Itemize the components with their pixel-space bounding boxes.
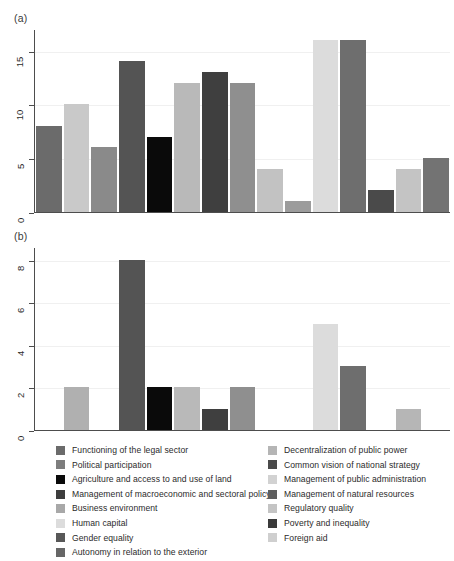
y-tick (29, 159, 34, 160)
bar-series-b (35, 248, 450, 430)
legend-item[interactable]: Management of public administration (268, 472, 454, 487)
legend-label: Decentralization of public power (284, 446, 407, 455)
legend-column-right: Decentralization of public powerCommon v… (268, 443, 454, 545)
bar (64, 104, 90, 212)
legend-label: Management of natural resources (284, 490, 414, 499)
legend-swatch-icon (56, 446, 65, 455)
legend-swatch-icon (268, 519, 277, 528)
y-tick-label: 0 (15, 436, 25, 441)
y-tick-label: 0 (15, 218, 25, 223)
bar (119, 61, 145, 212)
legend-item[interactable]: Foreign aid (268, 531, 454, 546)
legend-item[interactable]: Common vision of national strategy (268, 458, 454, 473)
legend-label: Poverty and inequality (284, 519, 370, 528)
y-tick-label: 15 (15, 56, 25, 67)
legend-label: Autonomy in relation to the exterior (72, 548, 207, 557)
bar (340, 366, 366, 430)
legend-label: Common vision of national strategy (284, 461, 420, 470)
legend-swatch-icon (268, 504, 277, 513)
bar (285, 201, 311, 212)
legend-item[interactable]: Business environment (56, 501, 266, 516)
legend-item[interactable]: Management of natural resources (268, 487, 454, 502)
y-tick-label: 2 (15, 393, 25, 398)
y-tick (29, 105, 34, 106)
bar (174, 83, 200, 212)
bar (91, 147, 117, 212)
legend-swatch-icon (268, 475, 277, 484)
y-tick (29, 303, 34, 304)
bar (202, 409, 228, 430)
legend-label: Foreign aid (284, 534, 328, 543)
y-tick (29, 431, 34, 432)
legend-swatch-icon (56, 504, 65, 513)
bar (230, 387, 256, 430)
legend-label: Human capital (72, 519, 128, 528)
legend-item[interactable]: Decentralization of public power (268, 443, 454, 458)
legend-swatch-icon (56, 533, 65, 542)
legend-swatch-icon (56, 460, 65, 469)
chart-panel-a: (a) 051015 (0, 0, 454, 228)
bar (313, 324, 339, 430)
chart-legend: Functioning of the legal sectorPolitical… (0, 443, 454, 561)
legend-item[interactable]: Agriculture and access to and use of lan… (56, 472, 266, 487)
legend-label: Political participation (72, 461, 152, 470)
bar (147, 387, 173, 430)
bar (202, 72, 228, 212)
y-tick-label: 8 (15, 266, 25, 271)
legend-swatch-icon (268, 490, 277, 499)
legend-swatch-icon (268, 460, 277, 469)
bar (340, 40, 366, 212)
y-tick (29, 52, 34, 53)
legend-swatch-icon (56, 548, 65, 557)
bar (230, 83, 256, 212)
legend-label: Agriculture and access to and use of lan… (72, 475, 232, 484)
legend-swatch-icon (56, 490, 65, 499)
legend-item[interactable]: Management of macroeconomic and sectoral… (56, 487, 266, 502)
bar (396, 409, 422, 430)
panel-b-label: (b) (14, 230, 27, 242)
y-tick (29, 346, 34, 347)
y-tick (29, 388, 34, 389)
bar (313, 40, 339, 212)
legend-label: Gender equality (72, 534, 133, 543)
legend-label: Business environment (72, 504, 158, 513)
legend-label: Functioning of the legal sector (72, 446, 188, 455)
legend-item[interactable]: Poverty and inequality (268, 516, 454, 531)
y-tick-label: 4 (15, 351, 25, 356)
plot-area-b: 02468 (34, 248, 450, 431)
y-tick-label: 6 (15, 308, 25, 313)
bar (174, 387, 200, 430)
bar (36, 126, 62, 212)
legend-item[interactable]: Autonomy in relation to the exterior (56, 545, 266, 560)
bar (119, 260, 145, 430)
bar (257, 169, 283, 212)
legend-item[interactable]: Political participation (56, 458, 266, 473)
legend-label: Management of public administration (284, 475, 426, 484)
y-tick (29, 213, 34, 214)
bar (147, 137, 173, 212)
legend-item[interactable]: Functioning of the legal sector (56, 443, 266, 458)
legend-item[interactable]: Regulatory quality (268, 501, 454, 516)
legend-column-left: Functioning of the legal sectorPolitical… (56, 443, 266, 560)
legend-swatch-icon (268, 533, 277, 542)
legend-swatch-icon (56, 475, 65, 484)
bar (423, 158, 449, 212)
y-tick (29, 261, 34, 262)
y-tick-label: 10 (15, 110, 25, 121)
bar (368, 190, 394, 212)
chart-panel-b: (b) 02468 (0, 228, 454, 440)
plot-area-a: 051015 (34, 30, 450, 213)
legend-item[interactable]: Human capital (56, 516, 266, 531)
panel-a-label: (a) (14, 12, 27, 24)
bar-series-a (35, 30, 450, 212)
legend-label: Regulatory quality (284, 504, 354, 513)
legend-swatch-icon (268, 446, 277, 455)
bar (64, 387, 90, 430)
bar (396, 169, 422, 212)
legend-swatch-icon (56, 519, 65, 528)
legend-label: Management of macroeconomic and sectoral… (72, 490, 271, 499)
y-tick-label: 5 (15, 164, 25, 169)
legend-item[interactable]: Gender equality (56, 531, 266, 546)
